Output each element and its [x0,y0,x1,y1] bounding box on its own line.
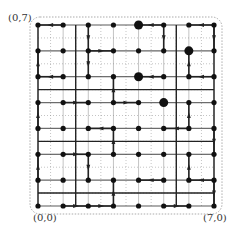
node [211,100,216,105]
arrowhead [198,23,204,27]
node [161,152,166,157]
node [136,100,141,105]
node [86,203,91,208]
node [211,152,216,157]
node [35,178,40,183]
node [186,126,191,131]
arrowhead [98,204,104,208]
arrowhead [86,35,90,41]
node [86,126,91,131]
node [35,126,40,131]
label-bottom-right: (7,0) [203,212,227,223]
node [186,100,191,105]
arrowhead [98,127,104,131]
grid-lines [30,17,222,214]
node [211,178,216,183]
node [161,203,166,208]
node [136,152,141,157]
node [86,152,91,157]
node [211,126,216,131]
node [86,22,91,27]
arrowhead [187,61,191,67]
node [136,126,141,131]
node [186,178,191,183]
node [61,22,66,27]
node [35,100,40,105]
arrowhead [47,23,53,27]
node [161,178,166,183]
node [211,22,216,27]
node [35,48,40,53]
node [35,74,40,79]
node [136,48,141,53]
node [61,203,66,208]
arrowhead [148,75,154,79]
node [211,74,216,79]
node [61,74,66,79]
node [136,178,141,183]
arrowhead [162,35,166,41]
node [61,126,66,131]
node [111,126,116,131]
arrowhead [148,23,154,27]
grid-diagram [0,0,245,232]
node [211,203,216,208]
node [186,203,191,208]
node [161,126,166,131]
arrowhead [86,61,90,67]
node [161,74,166,79]
node [35,203,40,208]
node [211,48,216,53]
node [35,22,40,27]
arrowhead [198,178,204,182]
arrowhead [148,178,154,182]
large-node [159,98,168,107]
node [86,48,91,53]
arrowhead [212,35,216,41]
node [61,48,66,53]
arrowhead [36,164,40,170]
node [61,100,66,105]
arrowhead [198,75,204,79]
arrowhead [36,61,40,67]
node [86,100,91,105]
node [86,74,91,79]
node [111,74,116,79]
node [136,203,141,208]
node [111,100,116,105]
node [111,48,116,53]
label-bottom-left: (0,0) [33,212,57,223]
large-node [184,46,193,55]
arrowhead [187,164,191,170]
node [61,152,66,157]
node [186,152,191,157]
large-node [134,21,143,30]
large-node [134,72,143,81]
arrowhead [36,112,40,118]
arrowhead [47,75,53,79]
arrowhead [98,49,104,53]
node [111,22,116,27]
node [186,74,191,79]
node [186,22,191,27]
node [111,203,116,208]
node [86,178,91,183]
label-top-left: (0,7) [8,12,32,23]
arrowhead [86,165,90,171]
node [111,178,116,183]
node [161,22,166,27]
arrowhead [123,101,129,105]
arrowhead [187,112,191,118]
node [61,178,66,183]
node [35,152,40,157]
node [111,152,116,157]
node [161,48,166,53]
